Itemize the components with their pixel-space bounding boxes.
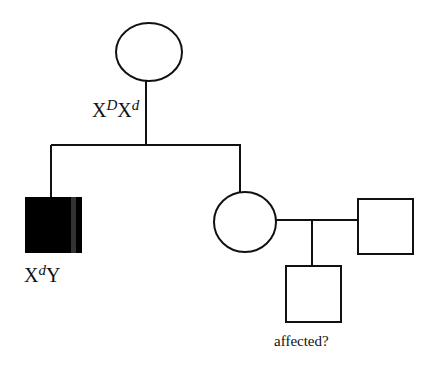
allele-superscript: d <box>132 97 140 113</box>
allele-superscript: d <box>38 262 46 278</box>
son-genotype-label: XdY <box>24 263 60 285</box>
mother-genotype-label: XDXd <box>92 98 139 120</box>
allele-superscript: D <box>106 97 117 113</box>
daughter-symbol <box>214 192 276 252</box>
mate-symbol <box>358 199 413 254</box>
allele-base: X <box>117 99 131 121</box>
allele-base: X <box>24 264 38 286</box>
allele-base: X <box>92 99 106 121</box>
mother-symbol <box>116 23 182 81</box>
allele-base: Y <box>46 264 60 286</box>
grandson-symbol <box>286 266 341 322</box>
grandson-note: affected? <box>274 333 329 350</box>
pedigree-chart <box>0 0 438 366</box>
son-symbol-highlight <box>71 197 76 253</box>
